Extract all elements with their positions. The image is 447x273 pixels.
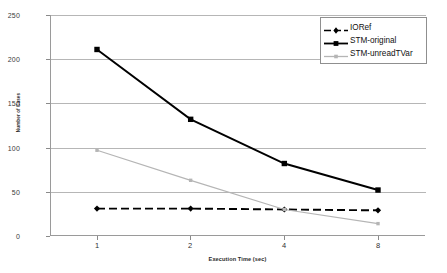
data-point-stm-unreadtvar-8 (376, 222, 379, 225)
series-line-stm-unreadtvar (97, 150, 378, 223)
series-group (94, 47, 381, 226)
data-point-stm-unreadtvar-4 (283, 208, 286, 211)
data-point-ioref-2 (188, 205, 194, 211)
legend-item-ioref[interactable]: IORef (324, 21, 422, 34)
data-point-ioref-1 (94, 205, 100, 211)
data-point-stm-unreadtvar-2 (189, 179, 192, 182)
data-point-ioref-8 (375, 207, 381, 213)
series-line-stm-original (97, 49, 378, 190)
legend-label-ioref: IORef (348, 23, 371, 32)
data-point-stm-original-4 (282, 161, 287, 166)
chart-legend: IORef STM-original STM-unreadTVar (320, 17, 427, 64)
series-line-ioref (97, 209, 378, 211)
legend-label-stm-original: STM-original (348, 36, 396, 45)
data-point-stm-original-1 (94, 47, 99, 52)
line-chart: 250 200 150 100 50 0 1 2 4 8 Execution T… (0, 0, 447, 273)
legend-label-stm-unreadtvar: STM-unreadTVar (348, 49, 413, 58)
data-point-stm-original-2 (188, 117, 193, 122)
legend-item-stm-unreadtvar[interactable]: STM-unreadTVar (324, 47, 422, 60)
data-point-stm-unreadtvar-1 (95, 149, 98, 152)
series-stm-unreadtvar (95, 149, 379, 226)
data-point-stm-original-8 (375, 187, 380, 192)
legend-item-stm-original[interactable]: STM-original (324, 34, 422, 47)
legend-swatch-ioref (324, 22, 348, 33)
series-stm-original (94, 47, 380, 193)
legend-swatch-stm-original (324, 35, 348, 46)
series-ioref (94, 205, 381, 213)
legend-swatch-stm-unreadtvar (324, 48, 348, 59)
